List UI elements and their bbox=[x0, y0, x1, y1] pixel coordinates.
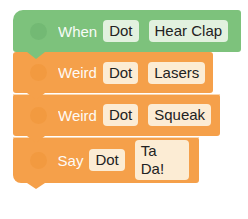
robot-selector[interactable]: Dot bbox=[89, 149, 124, 171]
block-connector-tab bbox=[27, 52, 45, 59]
block-keyword: When bbox=[58, 23, 97, 40]
block-handle-icon bbox=[30, 152, 47, 169]
block-keyword: Weird bbox=[58, 64, 97, 81]
event-block-when[interactable]: When Dot Hear Clap bbox=[13, 10, 241, 52]
action-selector[interactable]: Squeak bbox=[148, 104, 211, 126]
action-block-say[interactable]: Say Dot Ta Da! bbox=[13, 137, 199, 183]
block-handle-icon bbox=[30, 107, 47, 124]
block-handle-icon bbox=[30, 23, 47, 40]
action-selector[interactable]: Lasers bbox=[148, 62, 205, 84]
block-connector-tab bbox=[27, 93, 45, 100]
block-handle-icon bbox=[30, 64, 47, 81]
block-keyword: Weird bbox=[58, 107, 97, 124]
block-keyword: Say bbox=[58, 152, 84, 169]
robot-selector[interactable]: Dot bbox=[103, 20, 138, 42]
block-connector-tab bbox=[27, 136, 45, 143]
robot-selector[interactable]: Dot bbox=[103, 104, 138, 126]
event-selector[interactable]: Hear Clap bbox=[149, 20, 229, 42]
robot-selector[interactable]: Dot bbox=[103, 62, 138, 84]
action-block-weird-squeak[interactable]: Weird Dot Squeak bbox=[13, 94, 220, 136]
block-connector-tab bbox=[27, 183, 45, 189]
code-canvas: When Dot Hear Clap Weird Dot Lasers Weir… bbox=[0, 0, 248, 219]
speech-selector[interactable]: Ta Da! bbox=[135, 140, 189, 180]
